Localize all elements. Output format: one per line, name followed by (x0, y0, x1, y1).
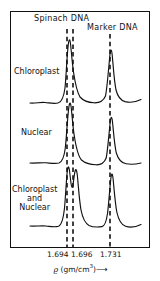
x-tick-label-1: 1.694 (47, 250, 68, 259)
scan-curves (0, 0, 160, 281)
trace-curve-nuclear (30, 103, 141, 165)
density-gradient-figure: Spinach DNA Marker DNA Chloroplast Nucle… (0, 0, 160, 281)
x-axis-tick-labels: 1.694 1.696 1.731 (0, 250, 160, 261)
x-axis-caption: ϱ (gm/cm3)⟶ (0, 263, 160, 274)
trace-curve-chloroplast (30, 40, 141, 104)
axis-units-open: (gm/cm (58, 265, 89, 274)
x-tick-label-3: 1.731 (100, 250, 121, 259)
axis-arrow-icon: ⟶ (96, 265, 106, 274)
trace-curve-chloroplast-and-nuclear (30, 167, 141, 227)
x-tick-label-2: 1.696 (71, 250, 92, 259)
